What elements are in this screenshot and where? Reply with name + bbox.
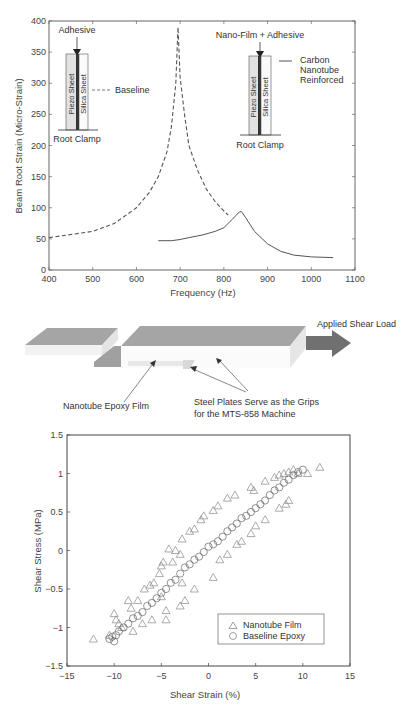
nanotube-film-label: Nanotube Epoxy Film [63, 401, 149, 411]
triangle-marker [252, 522, 260, 529]
x-tick-label: 500 [85, 274, 100, 284]
steel-plates-label-line1: Steel Plates Serve as the Grips [194, 397, 320, 407]
triangle-marker [176, 602, 184, 609]
triangle-marker [146, 581, 154, 588]
circle-marker [228, 524, 235, 531]
film-callout-line [124, 365, 152, 402]
bottom-y-axis-label: Shear Stress (MPa) [32, 509, 43, 592]
triangle-marker [148, 616, 156, 623]
y-tick-label: −1 [53, 623, 63, 633]
triangle-marker [89, 635, 97, 642]
triangle-marker [216, 556, 224, 563]
applied-load-arrow-icon [306, 330, 351, 357]
applied-load-label: Applied Shear Load [317, 319, 396, 329]
bottom-y-axis: 1.510.50−0.5−1−1.5 [45, 430, 70, 671]
triangle-marker [138, 620, 146, 627]
y-tick-label: 300 [31, 78, 46, 88]
right-plate-top [121, 326, 306, 346]
triangle-marker [280, 470, 288, 477]
bottom-x-axis-label: Shear Strain (%) [170, 689, 240, 700]
piezo-sheet-label-right: Piezo Sheet [249, 76, 258, 117]
x-tick-label: 800 [216, 274, 231, 284]
bottom-legend: Nanotube Film Baseline Epoxy [218, 614, 324, 644]
load-arrow-shaft [306, 336, 334, 350]
x-tick-label: 700 [173, 274, 188, 284]
triangle-marker [250, 486, 258, 493]
triangle-marker [134, 597, 142, 604]
silica-sheet-label-right: Silica Sheet [261, 76, 270, 117]
circle-marker [299, 466, 306, 473]
x-tick-label: 15 [345, 671, 355, 681]
y-tick-label: 100 [31, 203, 46, 213]
circle-marker [134, 612, 141, 619]
y-tick-label: 50 [36, 234, 46, 244]
triangle-marker [165, 545, 173, 552]
triangle-marker [223, 494, 231, 501]
x-tick-label: 1100 [345, 274, 364, 284]
root-clamp-label-left: Root Clamp [53, 134, 101, 144]
triangle-marker [162, 616, 170, 623]
nanotube-epoxy-film [128, 361, 192, 366]
y-tick-label: 0 [58, 546, 63, 556]
plate-callout-arrowhead-1 [190, 366, 197, 372]
nanotube-inset-diagram: Nano-Film + Adhesive Piezo Sheet Silica … [216, 30, 344, 150]
circle-marker [139, 609, 146, 616]
y-tick-label: 350 [31, 47, 46, 57]
triangle-marker [214, 502, 222, 509]
y-tick-label: −0.5 [45, 584, 63, 594]
carbon-label: Carbon [300, 55, 330, 65]
triangle-marker [233, 540, 241, 547]
y-tick-label: 0.5 [50, 507, 63, 517]
steel-plates-label-line2: for the MTS-858 Machine [194, 409, 296, 419]
triangle-marker [209, 573, 217, 580]
circle-marker [205, 543, 212, 550]
legend-baseline-epoxy: Baseline Epoxy [243, 631, 306, 641]
y-tick-label: −1.5 [45, 661, 63, 671]
triangle-marker [209, 506, 217, 513]
circle-marker [266, 491, 273, 498]
triangle-marker [127, 604, 135, 611]
x-tick-label: −5 [156, 671, 166, 681]
circle-marker [243, 512, 250, 519]
shear-stress-strain-chart: 1.510.50−0.5−1−1.5 −15−10−5051015 Shear … [0, 420, 413, 714]
circle-marker [238, 515, 245, 522]
top-y-axis-label: Beam Root Strain (Micro-Strain) [13, 78, 24, 213]
x-tick-label: 10 [298, 671, 308, 681]
circle-marker [177, 570, 184, 577]
triangle-marker [223, 550, 231, 557]
shear-test-diagram: Applied Shear Load Nanotube Epoxy Film S… [0, 300, 413, 420]
y-tick-label: 150 [31, 172, 46, 182]
left-plate-front [25, 345, 102, 355]
x-tick-label: 600 [129, 274, 144, 284]
x-tick-label: −10 [107, 671, 122, 681]
x-tick-label: 0 [206, 671, 211, 681]
circle-marker [129, 615, 136, 622]
nano-film-adhesive-label: Nano-Film + Adhesive [216, 30, 304, 40]
y-tick-label: 1.5 [50, 430, 63, 440]
triangle-marker [129, 627, 137, 634]
adhesive-label: Adhesive [58, 25, 95, 35]
reinforced-label: Reinforced [300, 75, 344, 85]
triangle-marker [124, 597, 132, 604]
x-tick-label: 400 [41, 274, 56, 284]
root-clamp-label-right: Root Clamp [236, 140, 284, 150]
triangle-marker [171, 547, 179, 554]
baseline-legend-label: Baseline [115, 85, 150, 95]
baseline-inset-diagram: Adhesive Piezo Sheet Silica Sheet Root C… [53, 25, 149, 144]
series-1-line [158, 212, 333, 258]
x-tick-label: 900 [260, 274, 275, 284]
left-steel-plate [25, 328, 118, 357]
x-tick-label: 1000 [301, 274, 321, 284]
circle-marker [257, 501, 264, 508]
triangle-marker [190, 585, 198, 592]
triangle-marker [155, 570, 163, 577]
x-tick-label: −15 [59, 671, 74, 681]
y-tick-label: 250 [31, 109, 46, 119]
silica-sheet-label: Silica Sheet [79, 73, 88, 114]
triangle-marker [169, 558, 177, 565]
y-tick-label: 200 [31, 141, 46, 151]
triangle-marker [316, 463, 324, 470]
y-tick-label: 400 [31, 16, 46, 26]
frequency-response-chart: 050100150200250300350400 400500600700800… [0, 0, 413, 300]
nanotube-label: Nanotube [300, 65, 339, 75]
